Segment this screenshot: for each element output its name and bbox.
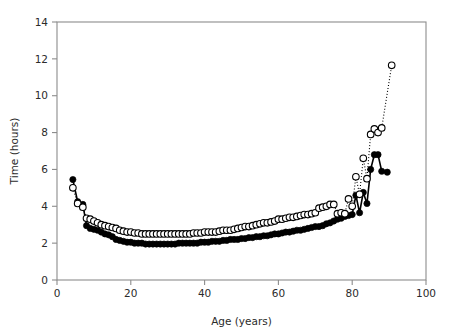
y-tick-label: 2 [41,237,48,249]
line-chart: 020406080100 02468101214 Age (years) Tim… [0,0,461,336]
filled-circle-marker [375,152,381,158]
open-circle-marker [356,191,363,198]
open-circle-marker [364,175,371,182]
filled-circle-marker [379,168,385,174]
y-axis-ticks: 02468101214 [35,16,57,286]
x-axis-title: Age (years) [211,315,272,327]
open-circle-marker [342,210,349,217]
y-tick-label: 14 [35,16,49,28]
filled-circle-marker [70,176,76,182]
x-tick-label: 100 [416,287,436,299]
x-tick-label: 80 [346,287,359,299]
series-line [73,65,392,234]
x-tick-label: 20 [124,287,137,299]
open-circle-marker [80,204,87,211]
y-tick-label: 8 [41,126,48,138]
series-open-circles [70,62,395,237]
filled-circle-marker [364,200,370,206]
filled-circle-marker [349,211,355,217]
x-tick-label: 0 [54,287,61,299]
open-circle-marker [330,201,337,208]
y-tick-label: 6 [41,163,48,175]
open-circle-marker [353,174,360,181]
y-tick-label: 12 [35,53,48,65]
y-axis-title: Time (hours) [8,118,20,186]
open-circle-marker [345,196,352,203]
filled-circle-marker [356,210,362,216]
x-axis-ticks: 020406080100 [54,280,436,299]
open-circle-marker [349,203,356,210]
filled-circle-marker [368,166,374,172]
x-tick-label: 60 [272,287,285,299]
open-circle-marker [360,155,367,162]
y-tick-label: 10 [35,89,48,101]
x-tick-label: 40 [198,287,211,299]
chart-figure: 020406080100 02468101214 Age (years) Tim… [0,0,461,336]
filled-circle-marker [384,169,390,175]
open-circle-marker [388,62,395,69]
open-circle-marker [70,185,77,192]
y-tick-label: 0 [41,274,48,286]
data-series-layer [70,62,395,247]
open-circle-marker [378,125,385,132]
y-tick-label: 4 [41,200,48,212]
